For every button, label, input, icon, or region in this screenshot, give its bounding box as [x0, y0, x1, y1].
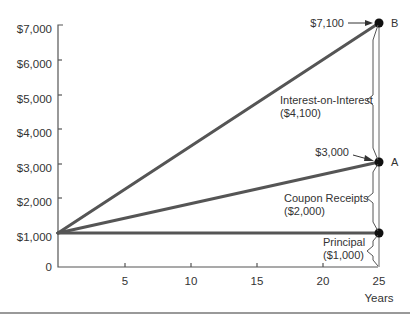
y-tick-label: $2,000: [17, 196, 52, 208]
arrow-b: [348, 20, 373, 26]
chart: $7,000 $6,000 $5,000 $4,000 $3,000 $2,00…: [0, 0, 410, 320]
y-tick-label: $4,000: [17, 127, 52, 139]
y-tick-label: $6,000: [17, 58, 52, 70]
x-tick-label: 25: [373, 275, 386, 287]
principal-amount: ($1,000): [323, 249, 364, 261]
y-tick-label: $5,000: [17, 93, 52, 105]
interest-bracket: [367, 25, 378, 160]
principal-bracket: [367, 235, 378, 266]
point-b: [375, 19, 384, 28]
point-a: [375, 158, 384, 167]
x-tick-label: 10: [185, 275, 198, 287]
x-tick-label: 15: [251, 275, 264, 287]
point-principal: [375, 229, 384, 238]
coupon-amount: ($2,000): [284, 205, 325, 217]
principal-label: Principal: [323, 236, 365, 248]
point-b-label: B: [391, 17, 398, 29]
arrow-a: [353, 155, 374, 161]
interest-amount: ($4,100): [280, 107, 321, 119]
y-ticks: [56, 60, 62, 233]
x-tick-label: 20: [317, 275, 330, 287]
point-a-label: A: [391, 156, 399, 168]
point-a-value: $3,000: [315, 146, 349, 158]
coupon-label: Coupon Receipts: [284, 192, 369, 204]
x-axis-label: Years: [365, 292, 394, 304]
point-b-value: $7,100: [310, 17, 344, 29]
coupon-bracket: [367, 164, 378, 231]
x-tick-label: 5: [122, 275, 128, 287]
y-tick-label: $1,000: [17, 231, 52, 243]
interest-label: Interest-on-Interest: [280, 94, 373, 106]
y-tick-label: $7,000: [17, 23, 52, 35]
y-tick-label: $3,000: [17, 162, 52, 174]
y-tick-label: 0: [46, 261, 52, 273]
